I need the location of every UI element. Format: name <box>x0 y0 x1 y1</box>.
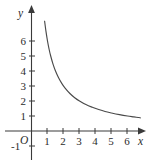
x-axis-label: x <box>138 136 143 148</box>
x-tick-label-4: 4 <box>88 136 102 147</box>
x-tick-label-5: 5 <box>104 136 118 147</box>
y-tick-label-5: 5 <box>12 51 26 62</box>
x-tick-label-2: 2 <box>56 136 70 147</box>
y-tick-label-3: 3 <box>12 81 26 92</box>
graph-figure: 6 5 4 3 2 1 -1 1 2 3 4 5 6 y x O <box>0 0 157 168</box>
y-tick-label-1: 1 <box>12 111 26 122</box>
origin-label: O <box>20 135 28 147</box>
y-tick-label-4: 4 <box>12 66 26 77</box>
y-axis-arrow-icon <box>28 5 35 13</box>
x-tick-label-1: 1 <box>40 136 54 147</box>
x-tick-label-6: 6 <box>120 136 134 147</box>
x-axis-arrow-icon <box>138 128 146 135</box>
y-tick-label-6: 6 <box>12 36 26 47</box>
x-tick-label-3: 3 <box>72 136 86 147</box>
decay-curve <box>45 21 141 118</box>
y-axis-label: y <box>18 8 23 20</box>
y-tick-label-2: 2 <box>12 96 26 107</box>
y-tick-label-neg1: -1 <box>11 141 20 152</box>
